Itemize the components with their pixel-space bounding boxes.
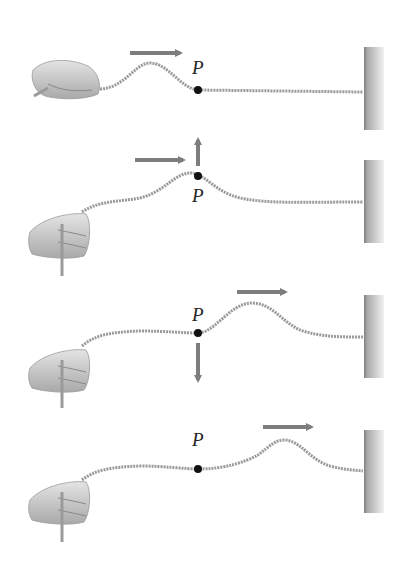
point-p-dot <box>194 172 202 180</box>
panel-1: P <box>32 47 384 130</box>
rope <box>100 63 363 92</box>
point-p-dot <box>194 329 202 337</box>
rope <box>82 173 363 212</box>
rope <box>82 303 363 346</box>
panel-4: P <box>29 427 384 542</box>
point-p-label: P <box>191 304 204 325</box>
hand-icon <box>29 482 90 542</box>
point-p-label: P <box>191 57 204 78</box>
wall <box>364 160 384 243</box>
point-p-dot <box>194 465 202 473</box>
hand-icon <box>29 350 90 408</box>
panel-2: P <box>29 140 384 276</box>
hand-icon <box>29 214 90 276</box>
point-p-dot <box>194 86 202 94</box>
panel-3: P <box>29 292 384 408</box>
rope <box>82 440 363 480</box>
hand-icon <box>32 60 99 98</box>
wave-diagram: P P P <box>0 0 412 563</box>
wall <box>364 295 384 378</box>
point-p-label: P <box>191 429 204 450</box>
wall <box>364 47 384 130</box>
wall <box>364 430 384 513</box>
point-p-label: P <box>191 185 204 206</box>
